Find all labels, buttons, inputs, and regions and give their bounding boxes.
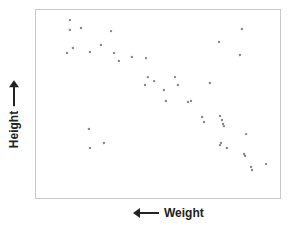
- data-point: [221, 119, 223, 121]
- data-point: [245, 133, 247, 135]
- data-point: [89, 147, 91, 149]
- scatter-points: [36, 10, 282, 200]
- data-point: [219, 144, 221, 146]
- data-point: [265, 163, 267, 165]
- data-point: [72, 47, 74, 49]
- data-point: [69, 19, 71, 21]
- data-point: [110, 30, 112, 32]
- data-point: [201, 116, 203, 118]
- plot-area: [35, 9, 281, 199]
- y-axis-label-text: Height: [7, 111, 21, 148]
- data-point: [203, 121, 205, 123]
- data-point: [223, 125, 225, 127]
- data-point: [218, 41, 220, 43]
- data-point: [177, 84, 179, 86]
- data-point: [80, 27, 82, 29]
- arrow-left-icon: [135, 212, 159, 214]
- data-point: [174, 76, 176, 78]
- data-point: [113, 52, 115, 54]
- data-point: [239, 54, 241, 56]
- x-axis-label: Weight: [135, 206, 204, 220]
- arrow-up-icon: [13, 82, 15, 106]
- data-point: [153, 80, 155, 82]
- data-point: [103, 142, 105, 144]
- data-point: [209, 82, 211, 84]
- data-point: [251, 169, 253, 171]
- data-point: [165, 100, 167, 102]
- data-point: [100, 44, 102, 46]
- data-point: [187, 101, 189, 103]
- x-axis-label-text: Weight: [164, 206, 204, 220]
- data-point: [222, 123, 224, 125]
- data-point: [145, 57, 147, 59]
- data-point: [147, 76, 149, 78]
- data-point: [219, 115, 221, 117]
- data-point: [163, 89, 165, 91]
- y-axis-label: Height: [7, 82, 21, 148]
- data-point: [89, 51, 91, 53]
- data-point: [118, 60, 120, 62]
- y-axis-label-container: Height: [4, 60, 24, 170]
- data-point: [241, 28, 243, 30]
- data-point: [88, 128, 90, 130]
- data-point: [69, 29, 71, 31]
- data-point: [220, 142, 222, 144]
- data-point: [250, 166, 252, 168]
- data-point: [244, 155, 246, 157]
- data-point: [226, 147, 228, 149]
- data-point: [190, 100, 192, 102]
- data-point: [144, 84, 146, 86]
- data-point: [131, 56, 133, 58]
- data-point: [66, 52, 68, 54]
